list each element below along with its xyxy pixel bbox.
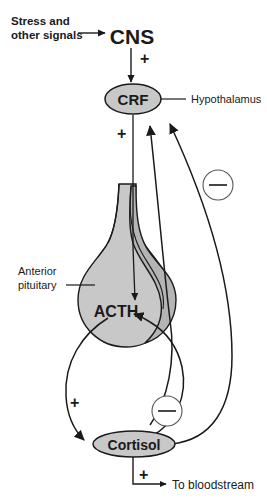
anterior-pituitary-label-line1: Anterior — [18, 265, 57, 277]
to-bloodstream-label: To bloodstream — [172, 478, 254, 492]
node-cortisol[interactable]: Cortisol — [93, 431, 175, 457]
hypothalamus-label: Hypothalamus — [191, 93, 262, 105]
plus-sign-cortisol-bloodstream: + — [139, 466, 148, 483]
stress-label-line1: Stress and — [11, 15, 70, 27]
diagram-canvas: CRF Cortisol ACTH CNS Stress and other s… — [0, 0, 267, 503]
minus-badge-cortisol-to-acth — [152, 396, 182, 426]
anterior-pituitary-label-line2: pituitary — [18, 279, 57, 291]
cortisol-label: Cortisol — [108, 437, 161, 453]
crf-label: CRF — [118, 91, 149, 108]
plus-sign-acth-cortisol: + — [70, 394, 79, 411]
cns-label: CNS — [110, 25, 154, 48]
minus-badge-cortisol-to-crf — [203, 170, 233, 200]
plus-sign-cns-crf: + — [140, 50, 149, 67]
pituitary-gland-shape — [78, 184, 176, 347]
stress-label-line2: other signals — [11, 29, 83, 41]
node-crf[interactable]: CRF — [105, 84, 161, 114]
plus-sign-crf-acth: + — [117, 125, 126, 142]
edge-cortisol-to-bloodstream — [133, 456, 166, 484]
acth-label: ACTH — [94, 303, 138, 320]
hpa-axis-diagram: CRF Cortisol ACTH CNS Stress and other s… — [0, 0, 267, 503]
